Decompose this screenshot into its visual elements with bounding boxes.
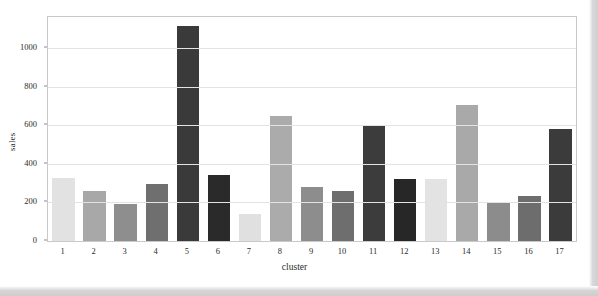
- x-axis-title: cluster: [0, 262, 589, 272]
- y-tick-label: 1000: [1, 42, 37, 52]
- x-tick-label: 13: [431, 246, 440, 256]
- x-tick-label: 3: [123, 246, 127, 256]
- bar[interactable]: [363, 125, 385, 241]
- x-tick-label: 4: [154, 246, 158, 256]
- gridline: [48, 164, 576, 165]
- bar[interactable]: [208, 175, 230, 241]
- x-tick-label: 1: [60, 246, 64, 256]
- bar[interactable]: [146, 184, 168, 241]
- bar-chart-figure: sales 02004006008001000 1234567891011121…: [0, 0, 589, 286]
- x-tick-label: 5: [185, 246, 189, 256]
- x-tick-label: 2: [91, 246, 95, 256]
- x-tick-label: 16: [524, 246, 533, 256]
- x-tick-label: 12: [400, 246, 409, 256]
- bar[interactable]: [332, 191, 354, 241]
- bar[interactable]: [425, 179, 447, 241]
- y-tick-label: 600: [1, 119, 37, 129]
- gridline: [48, 125, 576, 126]
- x-tick-label: 6: [216, 246, 220, 256]
- bar[interactable]: [52, 178, 74, 241]
- bar[interactable]: [301, 187, 323, 241]
- x-tick-label: 11: [369, 246, 377, 256]
- bar[interactable]: [487, 203, 509, 241]
- gridline: [48, 87, 576, 88]
- right-edge-band: [589, 0, 598, 296]
- bar[interactable]: [83, 191, 105, 241]
- y-tick-mark: [44, 201, 47, 202]
- bar[interactable]: [177, 26, 199, 241]
- x-tick-label: 15: [493, 246, 502, 256]
- y-tick-label: 200: [1, 196, 37, 206]
- x-tick-label: 9: [309, 246, 313, 256]
- y-tick-label: 800: [1, 81, 37, 91]
- x-tick-label: 7: [247, 246, 251, 256]
- screenshot-canvas: sales 02004006008001000 1234567891011121…: [0, 0, 598, 296]
- bar[interactable]: [270, 116, 292, 241]
- bar-series: [48, 17, 576, 241]
- bar[interactable]: [549, 129, 571, 241]
- y-tick-label: 0: [1, 235, 37, 245]
- x-tick-label: 17: [555, 246, 564, 256]
- bar[interactable]: [394, 179, 416, 241]
- x-tick-label: 8: [278, 246, 282, 256]
- bar[interactable]: [114, 204, 136, 241]
- x-tick-label: 10: [338, 246, 347, 256]
- y-tick-mark: [44, 240, 47, 241]
- gridline: [48, 202, 576, 203]
- bar[interactable]: [239, 214, 261, 241]
- y-tick-mark: [44, 85, 47, 86]
- x-tick-label: 14: [462, 246, 471, 256]
- plot-panel: [47, 16, 577, 242]
- y-tick-mark: [44, 124, 47, 125]
- y-tick-mark: [44, 46, 47, 47]
- gridline: [48, 48, 576, 49]
- y-tick-label: 400: [1, 158, 37, 168]
- y-tick-mark: [44, 162, 47, 163]
- bottom-edge-band: [0, 286, 598, 296]
